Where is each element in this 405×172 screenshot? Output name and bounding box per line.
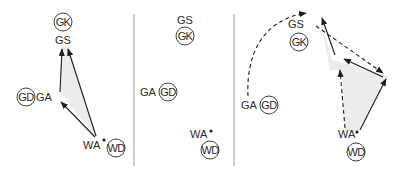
left-player-gs: GS <box>55 34 71 46</box>
right-player-wd: WD <box>347 143 365 161</box>
middle-player-gd: GD <box>159 83 177 101</box>
middle-player-gk: GK <box>176 27 194 45</box>
left-player-gd: GD <box>17 88 35 106</box>
gk-label: GK <box>292 36 308 48</box>
middle-player-wd: WD <box>201 141 219 159</box>
gk-label: GK <box>56 16 72 28</box>
ball-icon <box>355 130 358 133</box>
right-player-ga: GA <box>241 99 258 111</box>
ball-icon <box>209 129 212 132</box>
middle-player-ga: GA <box>140 86 157 98</box>
left-player-wa: WA <box>83 139 101 151</box>
gd-label: GD <box>160 86 176 98</box>
right-player-gd: GD <box>260 96 278 114</box>
right-player-wa: WA <box>338 128 356 140</box>
left-player-wd: WD <box>107 139 125 157</box>
left-player-gk: GK <box>54 13 72 31</box>
panel-middle: GS GK GA GD WA WD <box>140 14 219 159</box>
left-player-ga: GA <box>36 91 53 103</box>
gk-label: GK <box>178 30 194 42</box>
ball-icon <box>102 138 105 141</box>
netball-diagram: GK GS GD GA WA WD GS GK GA GD WA WD <box>0 0 405 172</box>
gd-label: GD <box>18 91 34 103</box>
wd-label: WD <box>107 142 125 154</box>
right-player-gs: GS <box>288 18 304 30</box>
gd-label: GD <box>261 99 277 111</box>
wd-label: WD <box>347 146 365 158</box>
middle-player-wa: WA <box>190 128 208 140</box>
wd-label: WD <box>201 144 219 156</box>
middle-player-gs: GS <box>177 14 193 26</box>
left-shaded-region <box>60 47 96 137</box>
panel-left: GK GS GD GA WA WD <box>17 13 125 157</box>
right-player-gk: GK <box>290 33 308 51</box>
panel-right: GS GK GA GD WA WD <box>241 13 388 161</box>
